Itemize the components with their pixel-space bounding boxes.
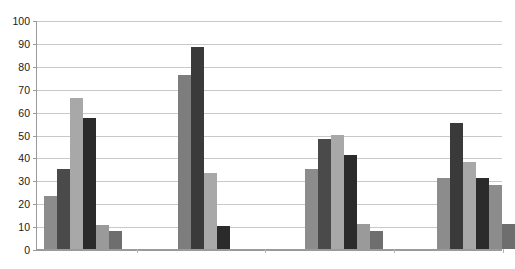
plot-area xyxy=(36,21,502,250)
y-axis-tick xyxy=(33,158,37,159)
y-axis-tick xyxy=(33,90,37,91)
bar xyxy=(191,47,204,249)
bar xyxy=(476,178,489,249)
bar-group xyxy=(44,21,122,249)
bar xyxy=(502,224,515,249)
x-axis-tick xyxy=(265,249,266,253)
y-axis-label: 90 xyxy=(0,39,30,50)
bar xyxy=(450,123,463,249)
bar xyxy=(96,225,109,249)
bar xyxy=(357,224,370,249)
bar xyxy=(344,155,357,249)
bar xyxy=(109,231,122,249)
y-axis-label: 0 xyxy=(0,245,30,256)
x-axis-tick xyxy=(394,249,395,253)
bar xyxy=(44,196,57,249)
y-axis-tick xyxy=(33,21,37,22)
y-axis-label: 70 xyxy=(0,84,30,95)
bar xyxy=(217,226,230,249)
y-axis-labels: 1009080706050403020100 xyxy=(0,21,34,250)
y-axis-tick xyxy=(33,204,37,205)
y-axis-tick xyxy=(33,136,37,137)
bar xyxy=(489,185,502,249)
y-axis-tick xyxy=(33,181,37,182)
y-axis-tick xyxy=(33,113,37,114)
y-axis-label: 30 xyxy=(0,176,30,187)
y-axis-label: 50 xyxy=(0,130,30,141)
y-axis-tick xyxy=(33,227,37,228)
bar xyxy=(305,169,318,249)
bar-group xyxy=(178,21,230,249)
bar xyxy=(463,162,476,249)
bar xyxy=(370,231,383,249)
y-axis-label: 100 xyxy=(0,16,30,27)
bar xyxy=(318,139,331,249)
bar xyxy=(83,118,96,249)
bar xyxy=(70,98,83,249)
bar xyxy=(331,135,344,250)
bar-group xyxy=(437,21,515,249)
y-axis-tick xyxy=(33,44,37,45)
y-axis-label: 20 xyxy=(0,199,30,210)
bar xyxy=(437,178,450,249)
x-axis-tick xyxy=(503,249,504,253)
gridline xyxy=(37,250,502,251)
bar xyxy=(178,75,191,249)
y-axis-label: 60 xyxy=(0,107,30,118)
y-axis-tick xyxy=(33,250,37,251)
bar xyxy=(204,173,217,249)
y-axis-label: 10 xyxy=(0,222,30,233)
y-axis-label: 40 xyxy=(0,153,30,164)
y-axis-label: 80 xyxy=(0,62,30,73)
bar-group xyxy=(305,21,383,249)
bar xyxy=(57,169,70,249)
y-axis-tick xyxy=(33,67,37,68)
x-axis-tick xyxy=(137,249,138,253)
